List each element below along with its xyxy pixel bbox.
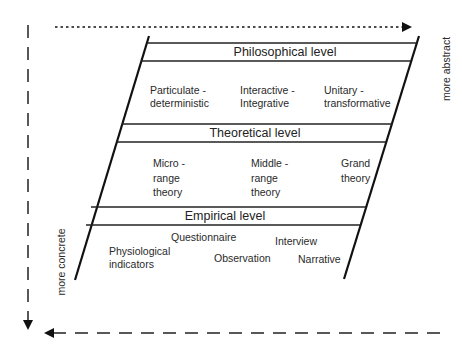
more-concrete-label: more concrete <box>55 222 67 302</box>
theoretical-item-middle-range-theory: Middle - range theory <box>251 156 288 200</box>
item-line: transformative <box>324 97 391 110</box>
item-line: Integrative <box>240 97 295 110</box>
philosophical-item-particulate-deterministic: Particulate - deterministic <box>150 84 209 110</box>
empirical-item-interview: Interview <box>275 235 317 248</box>
item-line: theory <box>153 185 185 200</box>
item-line: Interview <box>275 235 317 248</box>
item-line: deterministic <box>150 97 209 110</box>
item-line: range <box>153 171 185 186</box>
item-line: theory <box>251 185 288 200</box>
item-line: range <box>251 171 288 186</box>
more-abstract-label: more abstract <box>440 29 452 109</box>
item-line: Particulate - <box>150 84 209 97</box>
item-line: Physiological <box>109 245 170 258</box>
philosophical-level-title: Philosophical level <box>180 45 390 59</box>
philosophical-item-unitary-transformative: Unitary - transformative <box>324 84 391 110</box>
item-line: indicators <box>109 258 170 271</box>
item-line: Micro - <box>153 156 185 171</box>
theoretical-level-title: Theoretical level <box>150 126 360 140</box>
empirical-item-narrative: Narrative <box>298 253 341 266</box>
item-line: Middle - <box>251 156 288 171</box>
item-line: Narrative <box>298 253 341 266</box>
item-line: Unitary - <box>324 84 391 97</box>
theoretical-item-grand-theory: Grand theory <box>341 156 370 185</box>
item-line: theory <box>341 171 370 186</box>
item-line: Interactive - <box>240 84 295 97</box>
item-line: Observation <box>214 252 271 265</box>
empirical-item-physiological-indicators: Physiological indicators <box>109 245 170 271</box>
empirical-item-questionnaire: Questionnaire <box>171 231 236 244</box>
philosophical-item-interactive-integrative: Interactive - Integrative <box>240 84 295 110</box>
parallelogram-left-edge <box>75 36 149 280</box>
empirical-level-title: Empirical level <box>120 209 330 223</box>
theoretical-item-micro-range-theory: Micro - range theory <box>153 156 185 200</box>
item-line: Grand <box>341 156 370 171</box>
empirical-item-observation: Observation <box>214 252 271 265</box>
item-line: Questionnaire <box>171 231 236 244</box>
